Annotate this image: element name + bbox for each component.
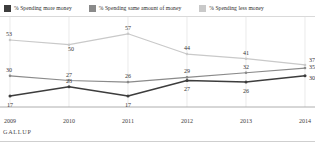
data-label: 23 [66, 78, 72, 84]
data-label: 26 [125, 73, 131, 79]
legend-item-spending-same[interactable]: % Spending same amount of money [89, 0, 182, 16]
data-point [9, 95, 12, 98]
data-label: 30 [6, 67, 12, 73]
x-axis-tick-2013: 2013 [240, 115, 252, 127]
source-attribution: GALLUP [3, 128, 32, 135]
data-point [186, 79, 189, 82]
data-label: 35 [309, 64, 315, 70]
x-axis-tick-2010: 2010 [63, 115, 75, 127]
data-point [68, 85, 71, 88]
legend-item-spending-less[interactable]: % Spending less money [199, 0, 264, 16]
data-point [304, 64, 307, 67]
x-axis-tick-2012: 2012 [181, 115, 193, 127]
data-label: 50 [68, 46, 74, 52]
data-point [127, 95, 130, 98]
x-axis-tick-2014: 2014 [299, 115, 311, 127]
data-point [304, 74, 307, 77]
data-label: 29 [184, 68, 190, 74]
legend-swatch-same-icon [89, 5, 96, 12]
data-point [245, 57, 248, 60]
data-label: 26 [243, 88, 249, 94]
data-label: 17 [125, 102, 131, 108]
data-label: 27 [184, 86, 190, 92]
data-label: 17 [7, 102, 13, 108]
data-point [186, 53, 189, 56]
data-point [245, 81, 248, 84]
legend-swatch-more-icon [4, 5, 11, 12]
series-line-less [10, 34, 305, 65]
x-axis-tick-2009: 2009 [4, 115, 16, 127]
data-label: 32 [243, 64, 249, 70]
legend-label-same: % Spending same amount of money [99, 5, 182, 12]
x-axis-labels: 200920102011201220132014 [0, 115, 315, 127]
data-label: 53 [6, 31, 12, 37]
data-label: 41 [243, 50, 249, 56]
data-label: 30 [309, 75, 315, 81]
x-axis-tick-2011: 2011 [122, 115, 134, 127]
data-point [127, 81, 130, 84]
chart-legend: % Spending more money % Spending same am… [0, 0, 315, 16]
chart-figure: % Spending more money % Spending same am… [0, 0, 315, 143]
data-point [245, 71, 248, 74]
footer-divider [0, 141, 315, 142]
plot-area: 172317272630302726293235535057444137 [0, 16, 315, 115]
data-point [9, 75, 12, 78]
data-label: 27 [66, 72, 72, 78]
legend-item-spending-more[interactable]: % Spending more money [4, 0, 72, 16]
data-point [127, 32, 130, 35]
legend-label-more: % Spending more money [14, 5, 72, 12]
data-point [9, 39, 12, 42]
data-point [186, 76, 189, 79]
legend-label-less: % Spending less money [209, 5, 264, 12]
line-chart-svg: 172317272630302726293235535057444137 [0, 16, 315, 115]
data-label: 37 [309, 57, 315, 63]
data-point [304, 67, 307, 70]
legend-swatch-less-icon [199, 5, 206, 12]
data-label: 44 [184, 45, 190, 51]
data-label: 57 [125, 25, 131, 31]
